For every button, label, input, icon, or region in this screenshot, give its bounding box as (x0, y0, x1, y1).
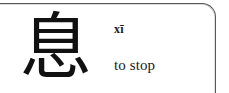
card-content: 息 xī to stop (0, 0, 229, 93)
definition-row: to stop (114, 49, 229, 83)
pinyin-reading: xī (114, 22, 124, 37)
hanzi-pane: 息 (0, 0, 108, 93)
gloss-pane: xī to stop (108, 0, 229, 93)
hanzi-character: 息 (20, 13, 92, 82)
english-definition: to stop (114, 57, 155, 74)
vocabulary-card: 息 xī to stop (0, 0, 229, 93)
pinyin-row: xī (114, 11, 229, 49)
